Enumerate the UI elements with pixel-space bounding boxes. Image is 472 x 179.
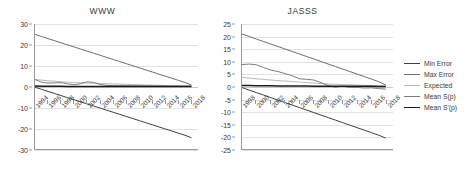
legend-swatch	[404, 107, 420, 108]
y-tick-label: 25	[223, 21, 231, 28]
series-line	[242, 34, 386, 85]
x-tick-mark	[386, 100, 387, 104]
y-tick-mark	[29, 45, 32, 46]
x-tick-mark	[313, 100, 314, 104]
y-tick-label: 10	[20, 63, 28, 70]
x-tick-mark	[60, 100, 61, 104]
y-tick-mark	[232, 99, 235, 100]
y-tick-mark	[29, 87, 32, 88]
chart-panel-www: WWW 3020100-10-20-30 1994199619982000200…	[0, 0, 205, 179]
x-tick-mark	[165, 100, 166, 104]
y-tick-label: -20	[18, 126, 28, 133]
y-tick-mark	[232, 36, 235, 37]
y-tick-label: 20	[20, 42, 28, 49]
legend-item[interactable]: Min Error	[404, 58, 472, 68]
y-tick-mark	[232, 87, 235, 88]
x-tick-mark	[357, 100, 358, 104]
y-tick-label: 30	[20, 21, 28, 28]
y-tick-mark	[232, 137, 235, 138]
y-tick-label: -30	[18, 147, 28, 154]
y-tick-mark	[29, 66, 32, 67]
y-tick-mark	[232, 24, 235, 25]
legend-label: Max Error	[424, 71, 454, 78]
x-tick-mark	[178, 100, 179, 104]
x-tick-mark	[284, 100, 285, 104]
y-tick-mark	[29, 108, 32, 109]
y-tick-label: -15	[221, 121, 231, 128]
y-tick-label: 15	[223, 46, 231, 53]
legend-label: Min Error	[424, 60, 452, 67]
x-tick-mark	[152, 100, 153, 104]
x-tick-mark	[47, 100, 48, 104]
legend-label: Mean S(p)	[424, 93, 456, 100]
x-tick-mark	[100, 100, 101, 104]
x-tick-mark	[139, 100, 140, 104]
y-tick-mark	[232, 49, 235, 50]
y-tick-label: 20	[223, 33, 231, 40]
series-line	[35, 34, 191, 85]
y-tick-label: 10	[223, 58, 231, 65]
legend-item[interactable]: Mean S'(p)	[404, 102, 472, 112]
chart-title-www: WWW	[0, 6, 205, 16]
series-line	[242, 86, 386, 87]
x-tick-mark	[371, 100, 372, 104]
x-tick-mark	[299, 100, 300, 104]
x-tick-mark	[255, 100, 256, 104]
x-tick-mark	[270, 100, 271, 104]
series-line	[35, 86, 191, 87]
y-tick-mark	[29, 24, 32, 25]
y-tick-mark	[232, 61, 235, 62]
x-tick-mark	[191, 100, 192, 104]
x-axis-www: 1994199619982000200220042006200820102012…	[34, 104, 198, 146]
y-tick-mark	[232, 124, 235, 125]
y-tick-mark	[29, 129, 32, 130]
legend-swatch	[404, 96, 420, 97]
series-line	[242, 77, 386, 86]
chart-figure: WWW 3020100-10-20-30 1994199619982000200…	[0, 0, 472, 179]
legend-label: Mean S'(p)	[424, 104, 457, 111]
gridline	[35, 150, 198, 151]
legend-swatch	[404, 63, 420, 64]
x-tick-mark	[73, 100, 74, 104]
y-tick-label: 5	[227, 71, 231, 78]
y-tick-label: -10	[221, 109, 231, 116]
y-tick-label: -25	[221, 147, 231, 154]
legend-label: Expected	[424, 82, 452, 89]
legend-item[interactable]: Max Error	[404, 69, 472, 79]
x-tick-mark	[241, 100, 242, 104]
x-tick-mark	[126, 100, 127, 104]
x-tick-mark	[342, 100, 343, 104]
y-tick-mark	[232, 150, 235, 151]
x-axis-jasss: 1998200020022004200620082010201220142016…	[241, 104, 393, 146]
y-axis-jasss: 2520151050-5-10-15-20-25	[205, 24, 235, 150]
chart-legend: Min ErrorMax ErrorExpectedMean S(p)Mean …	[404, 58, 472, 113]
y-tick-label: 0	[227, 84, 231, 91]
y-tick-label: -5	[225, 96, 231, 103]
y-tick-label: -10	[18, 105, 28, 112]
y-tick-label: -20	[221, 134, 231, 141]
legend-item[interactable]: Expected	[404, 80, 472, 90]
y-tick-label: 0	[24, 84, 28, 91]
legend-swatch	[404, 74, 420, 75]
x-tick-mark	[34, 100, 35, 104]
x-tick-mark	[328, 100, 329, 104]
y-axis-www: 3020100-10-20-30	[2, 24, 32, 150]
legend-swatch	[404, 85, 420, 86]
chart-title-jasss: JASSS	[205, 6, 400, 16]
y-tick-mark	[232, 74, 235, 75]
legend-item[interactable]: Mean S(p)	[404, 91, 472, 101]
y-tick-mark	[232, 112, 235, 113]
x-tick-mark	[86, 100, 87, 104]
x-tick-mark	[113, 100, 114, 104]
gridline	[242, 150, 393, 151]
y-tick-mark	[29, 150, 32, 151]
